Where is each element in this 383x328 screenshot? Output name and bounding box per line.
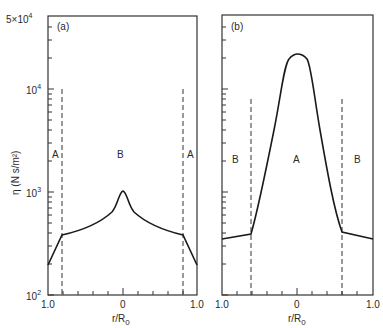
ytick-10000: 104 <box>26 83 41 96</box>
viscosity-profile-figure: 5×104 104 103 102 η (N s/m²) <box>0 0 383 328</box>
panel-a-x-ticks <box>63 288 183 295</box>
panel-b-x-axis-title: r/R0 <box>288 313 306 327</box>
panel-b-xtick-right: 1.0 <box>366 299 380 310</box>
panel-a: (a) A B A 1.0 0 1.0 r/R0 <box>41 16 204 327</box>
panel-b-region-right: B <box>354 154 361 165</box>
panel-a-xtick-right: 1.0 <box>190 299 204 310</box>
panel-a-label: (a) <box>57 21 69 32</box>
panel-b-x-ticks <box>237 288 357 295</box>
panel-b-xtick-left: 1.0 <box>215 299 229 310</box>
panel-a-xtick-left: 1.0 <box>41 299 55 310</box>
panel-b-region-mid: A <box>293 154 300 165</box>
panel-a-region-right: A <box>187 149 194 160</box>
y-axis-title: η (N s/m²) <box>10 151 21 195</box>
panel-a-viscosity-curve <box>48 191 197 265</box>
panel-b-viscosity-curve <box>222 54 373 239</box>
panel-a-region-mid: B <box>117 149 124 160</box>
ytick-top: 5×104 <box>6 12 33 25</box>
panel-b-xtick-mid: 0 <box>294 299 300 310</box>
panel-b: (b) B A B 1.0 0 1.0 r/R0 <box>215 15 380 327</box>
panel-a-xtick-mid: 0 <box>120 299 126 310</box>
panel-a-x-axis-title: r/R0 <box>112 313 130 327</box>
ytick-100: 102 <box>26 289 41 302</box>
panel-a-region-left: A <box>52 149 59 160</box>
panel-b-label: (b) <box>231 21 243 32</box>
ytick-1000: 103 <box>26 186 41 199</box>
panel-b-y-ticks <box>222 27 228 295</box>
panel-b-region-left: B <box>232 154 239 165</box>
